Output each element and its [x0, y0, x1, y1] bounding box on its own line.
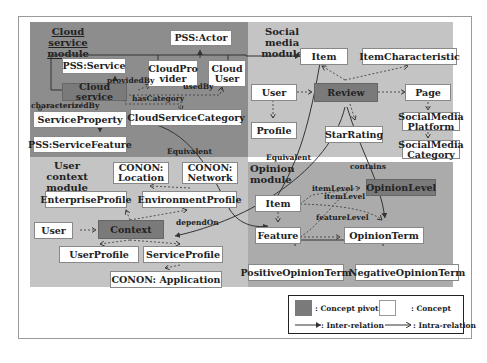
concept-enterprise-profile: EnterpriseProfile — [45, 191, 127, 208]
pivot-review: Review — [314, 83, 378, 102]
pivot-context: Context — [98, 220, 164, 239]
concept-social-media-category: SocialMedia Category — [402, 140, 460, 159]
legend-concept-pivot: : Concept pivot — [315, 304, 378, 313]
concept-feature: Feature — [255, 227, 301, 244]
concept-pss-service-feature: PSS:ServiceFeature — [33, 136, 127, 153]
label-feature-level: featureLevel — [316, 213, 369, 222]
legend: : Concept pivot : Concept : Inter-relati… — [288, 295, 464, 334]
label-contains: contains — [350, 162, 386, 171]
concept-pss-actor: PSS:Actor — [170, 30, 232, 46]
concept-conon-location: CONON: Location — [113, 162, 169, 184]
pivot-opinion-level: OpinionLevel — [366, 179, 436, 196]
concept-service-property: ServiceProperty — [33, 111, 127, 128]
legend-intra-relation: : Intra-relation — [413, 321, 476, 330]
concept-cloud-user: Cloud User — [208, 60, 246, 87]
concept-sm-item: Item — [300, 48, 348, 65]
concept-page: Page — [405, 84, 451, 101]
legend-pivot-swatch — [295, 300, 312, 316]
label-used-by: usedBy — [183, 82, 213, 91]
label-equivalent-1: Equivalent — [167, 147, 212, 156]
concept-conon-network: CONON: Network — [182, 162, 238, 184]
concept-cloud-service-category: CloudServiceCategory — [130, 109, 242, 126]
concept-social-media-platform: SocialMedia Platform — [402, 112, 460, 131]
pivot-cloud-service: Cloud service — [62, 83, 127, 101]
concept-user-profile: UserProfile — [59, 246, 139, 263]
concept-star-rating: StarRating — [325, 126, 383, 143]
label-depend-on: dependOn — [176, 218, 219, 227]
concept-opinion-term: OpinionTerm — [344, 227, 424, 244]
legend-inter-relation: : Inter-relation — [321, 321, 384, 330]
label-provided-by: providedBy — [107, 76, 154, 85]
concept-item-characteristic: ItemCharacteristic — [362, 48, 457, 65]
label-characterized-by: characterizedBy — [31, 101, 99, 110]
concept-sm-user: User — [251, 84, 297, 101]
label-has-category: hasCategory — [132, 94, 184, 103]
concept-conon-application: CONON: Application — [110, 271, 222, 288]
concept-positive-opinion-term: PositiveOpinionTerm — [248, 264, 344, 281]
concept-profile: Profile — [251, 122, 297, 139]
label-item-level-2: itemLevel — [324, 192, 365, 201]
concept-op-item: Item — [255, 195, 301, 212]
concept-uc-user: User — [34, 222, 73, 239]
concept-environment-profile: EnvironmentProfile — [142, 191, 237, 208]
concept-negative-opinion-term: NegativeOpinionTerm — [355, 264, 459, 281]
legend-concept-swatch — [379, 300, 396, 316]
concept-service-profile: ServiceProfile — [143, 246, 223, 263]
label-equivalent-2: Equivalent — [266, 153, 311, 162]
concept-pss-service: PSS:Service — [62, 58, 126, 74]
legend-concept: : Concept — [411, 304, 451, 313]
